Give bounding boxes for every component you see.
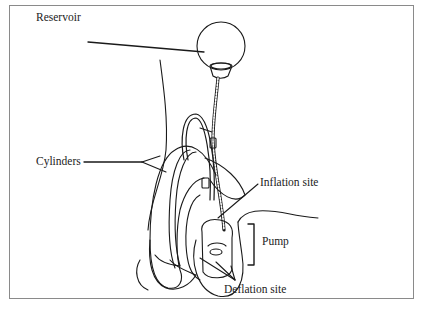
body-outline-right: [238, 211, 318, 222]
label-pump: Pump: [262, 236, 289, 248]
cylinders-leader-prong-2: [142, 162, 166, 172]
body-outline-left: [148, 60, 167, 230]
cylinders-leader-prong-1: [142, 156, 160, 162]
reservoir-leader: [88, 42, 204, 52]
reservoir-neck: [210, 63, 232, 78]
label-inflation-site: Inflation site: [260, 177, 318, 189]
inflation-leader: [218, 184, 258, 218]
label-reservoir: Reservoir: [36, 12, 81, 24]
deflation-leader-2: [200, 258, 235, 280]
cylinder-connector: [202, 178, 209, 188]
penis-outline: [150, 146, 216, 288]
penis-inner: [186, 195, 200, 280]
label-deflation-site: Deflation site: [224, 284, 286, 296]
label-cylinders: Cylinders: [36, 156, 81, 168]
pump-bracket: [248, 224, 254, 265]
